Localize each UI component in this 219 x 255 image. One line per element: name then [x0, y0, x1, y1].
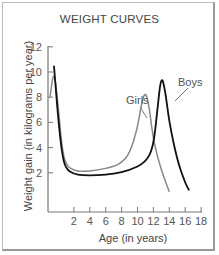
- plot-area: 2468101224681012141618GirlsBoys: [0, 0, 219, 255]
- x-tick-label: 6: [103, 215, 109, 227]
- y-tick-label: 10: [30, 66, 42, 78]
- girls-leader: [140, 107, 147, 118]
- boys-label: Boys: [178, 76, 203, 88]
- y-tick-label: 4: [36, 142, 42, 154]
- y-tick-label: 2: [36, 167, 42, 179]
- y-tick-label: 6: [36, 116, 42, 128]
- x-tick-label: 12: [147, 215, 159, 227]
- x-tick-label: 2: [71, 215, 77, 227]
- y-tick-label: 8: [36, 91, 42, 103]
- boys-leader: [175, 88, 188, 101]
- girls-label: Girls: [126, 94, 149, 106]
- y-tick-label: 12: [30, 41, 42, 53]
- chart-frame: WEIGHT CURVES Weight gain (in kilograms …: [0, 0, 219, 255]
- x-tick-label: 8: [119, 215, 125, 227]
- x-tick-label: 10: [131, 215, 143, 227]
- x-tick-label: 14: [163, 215, 175, 227]
- series-boys-line: [54, 66, 189, 191]
- x-tick-label: 18: [195, 215, 207, 227]
- x-tick-label: 16: [179, 215, 191, 227]
- x-tick-label: 4: [87, 215, 93, 227]
